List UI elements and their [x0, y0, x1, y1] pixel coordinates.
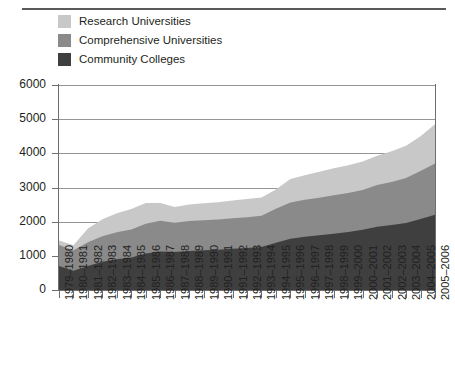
x-axis-tick-label: 1999–2000	[352, 245, 364, 300]
x-axis-tick	[59, 291, 60, 298]
y-axis-tick-label: 2000	[6, 214, 46, 228]
x-axis-tick-label: 2003–2004	[410, 245, 422, 300]
legend-item-research-universities: Research Universities	[58, 12, 222, 30]
x-axis-tick-label: 1980–1981	[77, 245, 89, 300]
x-axis-tick-label: 1994–1995	[280, 245, 292, 300]
legend-item-label: Community Colleges	[79, 53, 185, 66]
y-axis-tick-label: 5000	[6, 111, 46, 125]
x-axis-tick-label: 2001–2002	[381, 245, 393, 300]
x-axis-tick-label: 1983–1984	[121, 245, 133, 300]
legend-item-label: Research Universities	[79, 15, 191, 28]
y-axis-tick-label: 0	[6, 282, 46, 296]
x-axis-tick-label: 1986–1987	[164, 245, 176, 300]
x-axis-tick-label: 1989–1990	[208, 245, 220, 300]
x-axis-tick-label: 1995–1996	[294, 245, 306, 300]
y-axis-tick-label: 1000	[6, 248, 46, 262]
x-axis-tick-label: 1981–1982	[92, 245, 104, 300]
x-axis-tick-label: 1992–1993	[251, 245, 263, 300]
x-axis-tick-label: 2005–2006	[439, 245, 451, 300]
x-axis-tick-label: 1985–1986	[150, 245, 162, 300]
top-divider-rule	[22, 8, 446, 10]
legend-swatch-icon	[58, 15, 71, 28]
x-axis-tick-label: 1979–1980	[63, 245, 75, 300]
x-axis-tick-label: 2000–2001	[367, 245, 379, 300]
x-axis-tick-label: 1988–1989	[193, 245, 205, 300]
legend-swatch-icon	[58, 53, 71, 66]
x-axis-tick-label: 1996–1997	[309, 245, 321, 300]
x-axis-tick-label: 1991–1992	[237, 245, 249, 300]
x-axis-tick-label: 1990–1991	[222, 245, 234, 300]
legend-item-label: Comprehensive Universities	[79, 34, 222, 47]
x-axis-tick-label: 2004–2005	[425, 245, 437, 300]
y-axis-tick-label: 4000	[6, 145, 46, 159]
legend-item-community-colleges: Community Colleges	[58, 50, 222, 68]
x-axis-tick-label: 1982–1983	[106, 245, 118, 300]
chart-legend: Research Universities Comprehensive Univ…	[58, 12, 222, 69]
x-axis-tick-label: 1993–1994	[265, 245, 277, 300]
x-axis-tick-label: 1984–1985	[135, 245, 147, 300]
y-axis-tick-label: 3000	[6, 180, 46, 194]
chart-container: Research Universities Comprehensive Univ…	[0, 0, 455, 375]
x-axis-tick-label: 1987–1988	[179, 245, 191, 300]
x-axis-tick-label: 1998–1999	[338, 245, 350, 300]
legend-swatch-icon	[58, 34, 71, 47]
x-axis-tick-label: 1997–1998	[323, 245, 335, 300]
legend-item-comprehensive-universities: Comprehensive Universities	[58, 31, 222, 49]
y-axis-tick-label: 6000	[6, 77, 46, 91]
x-axis-tick-label: 2002–2003	[396, 245, 408, 300]
